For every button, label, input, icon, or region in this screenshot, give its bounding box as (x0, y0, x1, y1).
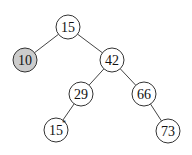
node-label: 15 (49, 123, 63, 138)
node-label: 15 (61, 20, 75, 35)
tree-edge-n66-n73 (151, 104, 162, 121)
tree-node-n42: 42 (100, 48, 124, 72)
tree-node-n15: 15 (56, 15, 80, 39)
tree-edge-n29-n15b (63, 104, 74, 120)
node-asterisk-mark: * (62, 119, 66, 128)
tree-node-n15b: 15* (44, 118, 68, 142)
tree-node-n73: 73 (156, 119, 180, 143)
node-label: 73 (161, 124, 175, 139)
node-label: 42 (105, 53, 119, 68)
tree-edge-n42-n66 (120, 69, 136, 86)
tree-nodes: 151042296615*73 (13, 15, 180, 143)
tree-node-n66: 66 (132, 82, 156, 106)
tree-node-n29: 29 (69, 82, 93, 106)
tree-edge-n15-n42 (78, 34, 103, 53)
node-label: 10 (18, 53, 32, 68)
node-label: 66 (137, 87, 151, 102)
tree-edges (35, 34, 162, 121)
tree-edge-n42-n29 (89, 69, 104, 85)
tree-diagram: 151042296615*73 (0, 0, 192, 155)
node-label: 29 (74, 87, 88, 102)
tree-node-n10: 10 (13, 48, 37, 72)
tree-edge-n15-n10 (35, 34, 59, 52)
